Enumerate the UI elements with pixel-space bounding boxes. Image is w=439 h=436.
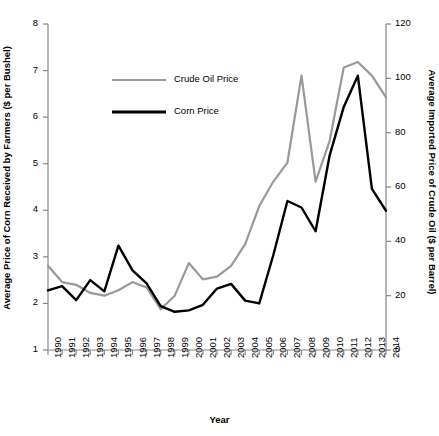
- series-line-crude-oil-price: [48, 62, 386, 309]
- x-tick-label: 1997: [151, 337, 162, 358]
- x-tick-label: 1996: [137, 337, 148, 358]
- x-tick-label: 2011: [348, 338, 359, 358]
- legend-lines: [112, 80, 166, 112]
- x-tick-label: 2002: [221, 337, 232, 358]
- plot-area: [0, 0, 439, 436]
- x-tick-label: 2005: [263, 337, 274, 358]
- x-tick-label: 2008: [306, 337, 317, 358]
- x-tick-label: 1999: [179, 337, 190, 358]
- y-tick-label-right: 80: [395, 126, 419, 137]
- x-tick-label: 1994: [108, 337, 119, 358]
- y-tick-label-left: 6: [14, 110, 38, 121]
- y-tick-label-right: 20: [395, 289, 419, 300]
- x-tick-label: 2010: [334, 337, 345, 358]
- x-tick-label: 2013: [376, 337, 387, 358]
- x-tick-label: 1995: [122, 337, 133, 358]
- y-tick-label-left: 7: [14, 64, 38, 75]
- y-tick-label-right: 60: [395, 180, 419, 191]
- y-tick-label-left: 4: [14, 203, 38, 214]
- x-tick-label: 2006: [277, 337, 288, 358]
- y-tick-label-right: 120: [395, 17, 419, 28]
- x-tick-label: 2003: [235, 337, 246, 358]
- x-tick-label: 1992: [80, 337, 91, 358]
- chart-container: Average Price of Corn Received by Farmer…: [0, 0, 439, 436]
- legend-label-corn-price: Corn Price: [174, 105, 219, 116]
- x-tick-label: 2007: [291, 337, 302, 358]
- y-tick-label-right: 100: [395, 71, 419, 82]
- x-tick-label: 2004: [249, 337, 260, 358]
- x-tick-label: 1991: [66, 337, 77, 358]
- legend-label-crude-oil-price: Crude Oil Price: [174, 73, 238, 84]
- x-tick-label: 2012: [362, 337, 373, 358]
- y-tick-label-left: 3: [14, 250, 38, 261]
- x-tick-label: 1990: [52, 337, 63, 358]
- x-tick-label: 2001: [207, 337, 218, 358]
- x-tick-label: 1998: [165, 337, 176, 358]
- x-tick-label: 2009: [320, 337, 331, 358]
- y-tick-label-right: 40: [395, 234, 419, 245]
- x-tick-label: 2014: [390, 337, 401, 358]
- x-tick-label: 1993: [94, 337, 105, 358]
- x-tick-label: 2000: [193, 337, 204, 358]
- y-tick-label-left: 1: [14, 343, 38, 354]
- y-tick-label-left: 2: [14, 296, 38, 307]
- data-series: [48, 62, 386, 312]
- y-tick-label-left: 8: [14, 17, 38, 28]
- y-tick-label-left: 5: [14, 157, 38, 168]
